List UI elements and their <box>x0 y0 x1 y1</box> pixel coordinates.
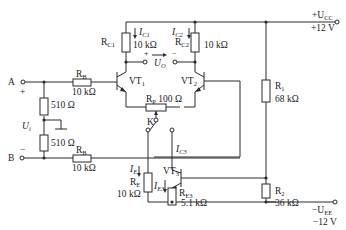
ground-symbol <box>44 120 67 129</box>
resistor-r1 <box>262 80 270 102</box>
r510b-value: 510 Ω <box>51 139 75 149</box>
output-terminal-minus <box>173 60 177 64</box>
ic2-label: IC2 <box>172 28 183 39</box>
circuit-diagram: A + B − Ui RB 10 kΩ 510 Ω 510 Ω RB 10 kΩ… <box>0 0 346 230</box>
rc1-name: RC1 <box>101 38 115 49</box>
ie-label: IE <box>130 165 137 176</box>
switch-k-contact-right <box>170 128 174 132</box>
output-terminal-plus <box>143 60 147 64</box>
vcc-label: +UCC <box>312 11 333 22</box>
resistor-rc1 <box>122 33 130 52</box>
re-name: RE <box>130 178 140 189</box>
resistor-rc2 <box>191 33 199 52</box>
ic3-label: IC3 <box>176 145 187 156</box>
input-a-sign: + <box>20 88 25 98</box>
input-terminal-b <box>20 156 24 160</box>
vee-label: −UEE <box>312 206 332 217</box>
uo-label: UO <box>154 59 166 70</box>
uo-minus: − <box>172 50 177 58</box>
vee-value: −12 V <box>313 218 337 228</box>
vcc-terminal <box>335 20 339 24</box>
ui-label: Ui <box>22 122 31 133</box>
input-b-label: B <box>8 154 14 164</box>
rb2-name: RB <box>76 146 87 157</box>
re-value: 10 kΩ <box>117 190 141 200</box>
r2-name: R2 <box>275 187 285 198</box>
ie3-label: IE3 <box>154 182 164 193</box>
r2-value: 36 kΩ <box>275 199 299 209</box>
resistor-510b <box>40 135 48 151</box>
vt3-label: VT3 <box>163 167 179 178</box>
switch-k-common <box>154 118 158 122</box>
vcc-value: +12 V <box>311 24 335 34</box>
rc2-name: RC2 <box>175 38 189 49</box>
vt1-label: VT1 <box>129 77 145 88</box>
resistor-re <box>144 173 152 192</box>
input-terminal-a <box>21 80 25 84</box>
input-b-sign: − <box>20 146 25 156</box>
switch-k-label: K <box>147 118 154 128</box>
input-a-label: A <box>8 78 15 88</box>
uo-plus: + <box>144 50 149 58</box>
resistor-r2 <box>262 184 270 198</box>
rb1-name: RB <box>76 70 87 81</box>
vee-terminal <box>333 200 337 204</box>
switch-k-contact-left <box>146 128 150 132</box>
vt2-label: VT2 <box>181 77 197 88</box>
r510a-value: 510 Ω <box>51 101 75 111</box>
r1-name: R1 <box>275 82 285 93</box>
ic1-label: IC1 <box>139 28 150 39</box>
rb2-value: 10 kΩ <box>72 164 96 174</box>
r1-value: 68 kΩ <box>275 95 299 105</box>
rp-label: RP 100 Ω <box>146 95 182 106</box>
re3-value: 5.1 kΩ <box>181 199 207 209</box>
resistor-510a <box>40 98 48 115</box>
rc2-value: 10 kΩ <box>204 41 228 51</box>
rb1-value: 10 kΩ <box>72 88 96 98</box>
